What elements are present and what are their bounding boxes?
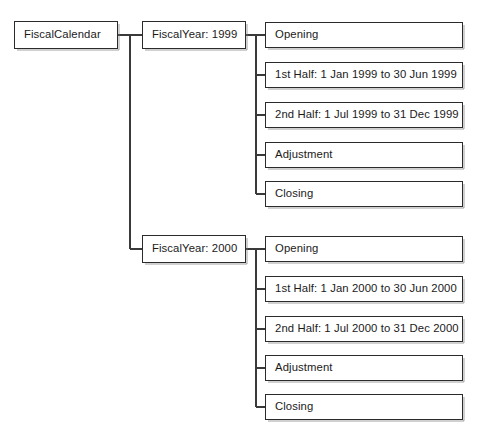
node-label: 2nd Half: 1 Jul 2000 to 31 Dec 2000 [266,323,459,335]
node-fiscal-calendar[interactable]: FiscalCalendar [14,21,118,49]
node-fiscal-year-1999[interactable]: FiscalYear: 1999 [142,21,246,49]
node-label: FiscalYear: 1999 [143,29,237,41]
node-fiscal-year-2000[interactable]: FiscalYear: 2000 [142,235,246,263]
node-label: Closing [266,188,313,200]
node-1999-adjustment[interactable]: Adjustment [265,142,463,168]
node-1999-first-half[interactable]: 1st Half: 1 Jan 1999 to 30 Jun 1999 [265,62,463,88]
node-1999-opening[interactable]: Opening [265,22,463,48]
node-2000-adjustment[interactable]: Adjustment [265,355,463,381]
fiscal-calendar-tree-diagram: FiscalCalendar FiscalYear: 1999 Opening … [0,0,484,440]
node-label: Closing [266,401,313,413]
node-label: Adjustment [266,362,333,374]
node-label: Opening [266,243,318,255]
node-label: 1st Half: 1 Jan 1999 to 30 Jun 1999 [266,69,457,81]
node-1999-closing[interactable]: Closing [265,181,463,207]
node-label: Opening [266,29,318,41]
node-label: Adjustment [266,149,333,161]
node-label: 1st Half: 1 Jan 2000 to 30 Jun 2000 [266,283,457,295]
node-1999-second-half[interactable]: 2nd Half: 1 Jul 1999 to 31 Dec 1999 [265,102,463,128]
node-2000-opening[interactable]: Opening [265,236,463,262]
node-2000-closing[interactable]: Closing [265,394,463,420]
node-2000-first-half[interactable]: 1st Half: 1 Jan 2000 to 30 Jun 2000 [265,276,463,302]
node-label: 2nd Half: 1 Jul 1999 to 31 Dec 1999 [266,109,459,121]
node-label: FiscalCalendar [15,29,101,41]
node-2000-second-half[interactable]: 2nd Half: 1 Jul 2000 to 31 Dec 2000 [265,316,463,342]
node-label: FiscalYear: 2000 [143,243,237,255]
